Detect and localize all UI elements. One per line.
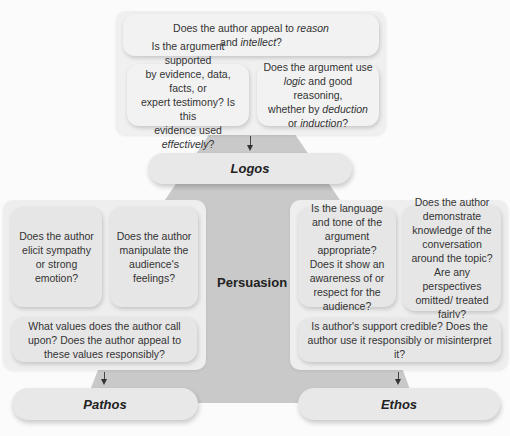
pathos-values-question: What values does the author call upon? D… xyxy=(12,317,197,362)
pathos-arrow-icon xyxy=(104,372,105,380)
ethos-knowledge-question: Does the author demonstrate knowledge of… xyxy=(403,205,501,311)
ethos-language-question: Is the language and tone of the argument… xyxy=(298,207,396,307)
logos-evidence-question: Is the argument supported by evidence, d… xyxy=(127,64,249,126)
ethos-label: Ethos xyxy=(298,388,500,420)
pathos-label: Pathos xyxy=(12,388,198,420)
ethos-credible-question: Is author's support credible? Does the a… xyxy=(298,318,501,362)
logos-arrow-icon xyxy=(250,136,251,146)
logos-reasoning-question: Does the argument use logic and good rea… xyxy=(257,64,379,126)
persuasion-label: Persuasion xyxy=(217,275,287,290)
pathos-sympathy-question: Does the author elicit sympathy or stron… xyxy=(11,207,102,307)
logos-label: Logos xyxy=(148,153,352,184)
pathos-manipulate-question: Does the author manipulate the audience'… xyxy=(110,207,198,307)
ethos-arrow-icon xyxy=(398,372,399,380)
